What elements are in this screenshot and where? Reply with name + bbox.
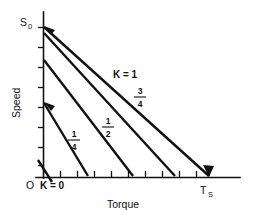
frac-3-4-numerator: 3 (138, 86, 143, 96)
series-group (38, 27, 209, 182)
frac-1-4-numerator: 1 (72, 129, 77, 139)
y-axis-title: Speed (10, 87, 22, 118)
curve-k-1 (44, 27, 209, 176)
s0-subscript-text: 0 (28, 22, 32, 31)
series-label-k-one-quarter: 1 4 (68, 129, 80, 152)
frac-1-4-denominator: 4 (72, 142, 77, 152)
series-label-k-one-half: 1 2 (102, 116, 114, 139)
series-label-k-three-quarters: 3 4 (134, 86, 146, 109)
curve-k-one-quarter (44, 103, 88, 176)
frac-1-2-numerator: 1 (106, 116, 111, 126)
frac-1-2-denominator: 2 (106, 129, 111, 139)
frac-3-4-denominator: 4 (138, 99, 143, 109)
ts-main-text: T (200, 184, 207, 196)
y-intercept-label: S 0 (20, 16, 32, 31)
s0-main-text: S (20, 16, 27, 28)
curve-k-three-quarters (44, 33, 175, 176)
speed-torque-chart: S 0 O K = 0 K = 1 3 4 1 2 1 4 T (0, 0, 256, 215)
x-intercept-label: T S (200, 184, 213, 199)
series-label-k-1: K = 1 (113, 69, 138, 80)
origin-label: O (26, 179, 34, 191)
curve-k-0 (38, 160, 52, 182)
x-axis-title: Torque (107, 198, 139, 210)
chart-canvas: S 0 O K = 0 K = 1 3 4 1 2 1 4 T (0, 0, 256, 215)
ts-subscript-text: S (208, 190, 213, 199)
series-label-k-0: K = 0 (40, 180, 65, 191)
